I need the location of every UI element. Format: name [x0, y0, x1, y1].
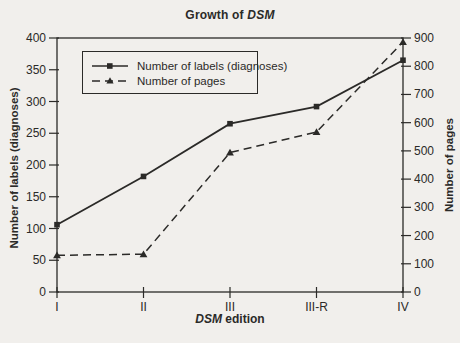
legend-row-labels: Number of labels (diagnoses)	[91, 58, 249, 73]
svg-text:150: 150	[26, 190, 46, 204]
x-axis-title-italic: DSM	[195, 312, 222, 326]
x-axis-title: DSM edition	[0, 312, 460, 326]
svg-text:200: 200	[26, 158, 46, 172]
svg-text:100: 100	[26, 222, 46, 236]
svg-text:800: 800	[414, 59, 434, 73]
svg-text:700: 700	[414, 87, 434, 101]
svg-text:250: 250	[26, 126, 46, 140]
left-axis-title: Number of labels (diagnoses)	[8, 87, 20, 248]
svg-text:0: 0	[414, 285, 421, 299]
solid-line-square-marker-icon	[91, 61, 129, 71]
legend-row-pages: Number of pages	[91, 73, 249, 88]
legend-label-pages: Number of pages	[137, 75, 225, 87]
svg-text:600: 600	[414, 116, 434, 130]
dashed-line-triangle-marker-icon	[91, 76, 129, 86]
svg-text:0: 0	[39, 285, 46, 299]
svg-text:200: 200	[414, 229, 434, 243]
svg-text:400: 400	[414, 172, 434, 186]
svg-text:500: 500	[414, 144, 434, 158]
dsm-growth-figure: Growth of DSM 05010015020025030035040001…	[0, 0, 460, 343]
svg-text:50: 50	[33, 253, 47, 267]
svg-text:100: 100	[414, 257, 434, 271]
svg-text:300: 300	[26, 95, 46, 109]
legend: Number of labels (diagnoses) Number of p…	[82, 51, 258, 94]
svg-text:900: 900	[414, 31, 434, 45]
svg-text:400: 400	[26, 31, 46, 45]
svg-text:350: 350	[26, 63, 46, 77]
legend-label-diagnoses: Number of labels (diagnoses)	[137, 60, 287, 72]
x-axis-title-rest: edition	[222, 312, 265, 326]
right-axis-title: Number of pages	[443, 118, 455, 212]
svg-text:300: 300	[414, 200, 434, 214]
